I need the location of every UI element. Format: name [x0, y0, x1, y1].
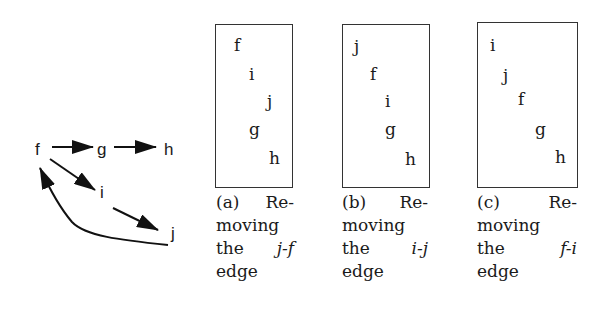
panel-a-ordering-box: f i j g h — [215, 24, 293, 188]
panel-a-node-4: g — [249, 121, 260, 138]
panel-c-node-5: h — [555, 149, 566, 166]
edge-f-i — [50, 159, 95, 190]
caption-c-edge-name: f-i — [560, 237, 577, 260]
caption-b-re: Re- — [399, 191, 428, 214]
panel-a-node-5: h — [269, 150, 280, 167]
caption-a-moving: moving — [216, 215, 279, 235]
panel-c-node-2: j — [503, 67, 508, 84]
panel-a-node-3: j — [267, 93, 272, 110]
panel-b-node-3: i — [385, 93, 390, 110]
graph-node-i: i — [100, 184, 104, 201]
edge-j-f — [40, 168, 168, 245]
caption-c-edge: edge — [477, 261, 519, 281]
caption-c-re: Re- — [548, 191, 577, 214]
panel-c-node-4: g — [535, 121, 546, 138]
panel-b-node-5: h — [405, 151, 416, 168]
caption-a-edge-name: j-f — [277, 237, 294, 260]
edge-i-j — [113, 208, 158, 230]
caption-b-label: (b) — [342, 192, 366, 212]
graph-edges — [0, 0, 210, 318]
panel-a-caption: (a)Re- moving thej-f edge — [216, 191, 294, 283]
caption-a-edge: edge — [216, 261, 258, 281]
caption-b-edge-name: i-j — [412, 237, 428, 260]
panel-b-ordering-box: j f i g h — [342, 24, 430, 188]
graph-node-g: g — [97, 141, 106, 158]
panel-c-caption: (c)Re- moving thef-i edge — [477, 191, 577, 283]
panel-c-ordering-box: i j f g h — [477, 22, 578, 188]
panel-a-node-1: f — [234, 37, 240, 54]
graph-node-f: f — [35, 141, 40, 158]
panel-c-node-3: f — [518, 91, 524, 108]
directed-graph: f g h i j — [0, 0, 210, 318]
panel-b-node-2: f — [370, 66, 376, 83]
panel-b-node-4: g — [385, 121, 396, 138]
caption-a-the: the — [216, 238, 244, 258]
panel-b-node-1: j — [354, 38, 359, 55]
caption-c-moving: moving — [477, 215, 540, 235]
panel-a-node-2: i — [249, 66, 254, 83]
panel-c-node-1: i — [490, 37, 495, 54]
caption-b-edge: edge — [342, 261, 384, 281]
graph-node-h: h — [164, 141, 173, 158]
caption-b-moving: moving — [342, 215, 405, 235]
caption-c-the: the — [477, 238, 505, 258]
caption-a-re: Re- — [265, 191, 294, 214]
caption-a-label: (a) — [216, 192, 239, 212]
panel-b-caption: (b)Re- moving thei-j edge — [342, 191, 428, 283]
graph-node-j: j — [171, 225, 175, 242]
caption-b-the: the — [342, 238, 370, 258]
caption-c-label: (c) — [477, 192, 500, 212]
